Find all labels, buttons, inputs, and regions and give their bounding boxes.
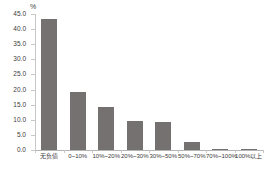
y-axis-tick-label: 45.0 [13, 10, 26, 18]
y-axis-tick-label: 40.0 [13, 25, 26, 33]
y-axis-tick: 20.0 [31, 90, 35, 91]
y-axis-tick-label: 0.0 [17, 146, 26, 154]
x-axis-label: 50%~70% [178, 152, 207, 160]
y-axis-tick: 35.0 [31, 44, 35, 45]
x-axis-label: 70%~100% [206, 152, 235, 160]
bar [212, 149, 228, 151]
y-axis-tick: 15.0 [31, 105, 35, 106]
y-axis-tick: 10.0 [31, 120, 35, 121]
bar [155, 122, 171, 150]
y-axis-tick-label: 35.0 [13, 40, 26, 48]
bar [127, 121, 143, 150]
bar [241, 149, 257, 150]
x-axis-label: 10%~20% [92, 152, 121, 160]
y-axis-tick-label: 30.0 [13, 55, 26, 63]
y-axis-tick: 40.0 [31, 29, 35, 30]
plot-area: 45.040.035.030.025.020.015.010.05.00.0 [35, 14, 263, 150]
y-axis-tick: 25.0 [31, 74, 35, 75]
x-axis-label: 100%以上 [235, 152, 264, 160]
x-axis-label: 20%~30% [121, 152, 150, 160]
y-axis-tick-label: 5.0 [17, 131, 26, 139]
y-axis-tick-label: 20.0 [13, 86, 26, 94]
x-axis-label: 30%~50% [149, 152, 178, 160]
x-axis-tick [263, 150, 264, 153]
bar [41, 19, 57, 150]
y-axis-unit-label: % [30, 2, 36, 11]
y-axis-line [35, 14, 36, 150]
bar [70, 92, 86, 150]
y-axis-tick-label: 10.0 [13, 116, 26, 124]
y-axis-tick: 30.0 [31, 59, 35, 60]
y-axis-tick-label: 15.0 [13, 101, 26, 109]
x-axis-label: 无负债 [35, 152, 64, 160]
y-axis-tick-label: 25.0 [13, 70, 26, 78]
y-axis-tick: 5.0 [31, 135, 35, 136]
x-axis-label: 0~10% [64, 152, 93, 160]
bar [98, 107, 114, 150]
bar-chart: % 45.040.035.030.025.020.015.010.05.00.0… [0, 0, 267, 176]
bar [184, 142, 200, 150]
y-axis-tick: 45.0 [31, 14, 35, 15]
